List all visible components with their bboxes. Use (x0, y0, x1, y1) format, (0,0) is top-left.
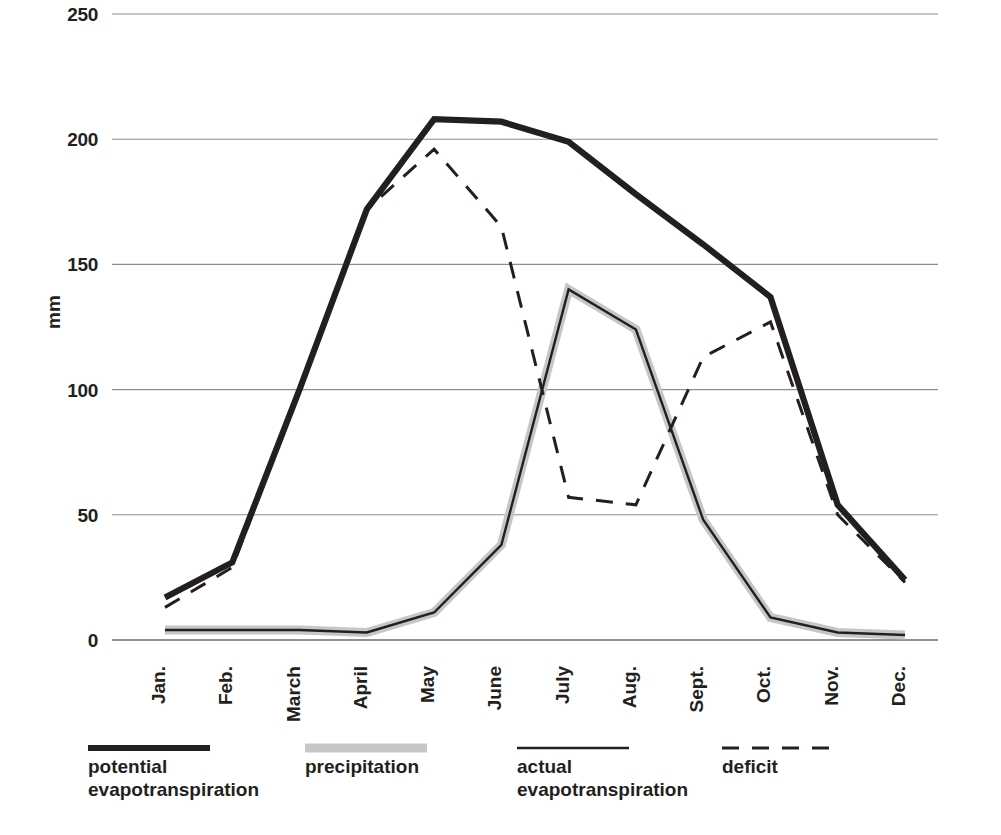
legend-label-2: actual (517, 756, 572, 777)
x-tick-label-1: Feb. (215, 666, 236, 705)
legend-label-1: precipitation (305, 756, 419, 777)
legend-label-0: potential (88, 756, 167, 777)
x-tick-label-5: June (484, 666, 505, 710)
legend-label-0-line2: evapotranspiration (88, 779, 259, 800)
y-tick-label-250: 250 (67, 4, 98, 25)
x-tick-label-9: Oct. (753, 666, 774, 703)
x-tick-label-11: Dec. (888, 666, 909, 706)
x-tick-label-0: Jan. (148, 666, 169, 704)
y-tick-label-200: 200 (67, 129, 98, 150)
chart-canvas: 050100150200250 mm Jan.Feb.MarchAprilMay… (0, 0, 1001, 835)
y-tick-label-150: 150 (67, 254, 98, 275)
x-tick-label-3: April (350, 666, 371, 709)
x-tick-label-8: Sept. (686, 666, 707, 712)
legend-label-2-line2: evapotranspiration (517, 779, 688, 800)
x-tick-label-7: Aug. (619, 666, 640, 708)
water-balance-chart: 050100150200250 mm Jan.Feb.MarchAprilMay… (0, 0, 1001, 835)
y-tick-label-50: 50 (77, 505, 98, 526)
x-tick-label-2: March (283, 666, 304, 722)
y-axis-title: mm (43, 295, 64, 329)
x-tick-label-4: May (417, 666, 438, 703)
legend-label-3: deficit (722, 756, 779, 777)
y-tick-label-100: 100 (67, 380, 98, 401)
x-tick-label-6: July (552, 666, 573, 704)
x-tick-label-10: Nov. (821, 666, 842, 706)
y-tick-label-0: 0 (88, 630, 98, 651)
